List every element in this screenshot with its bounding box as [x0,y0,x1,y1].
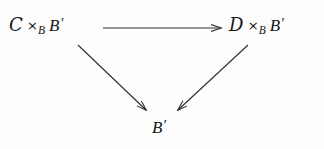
times-symbol-left: × [27,18,38,33]
node-top-left: C×BB′ [9,16,63,37]
base-B-right: B [270,16,280,35]
prime-mark-left: ′ [60,15,64,31]
prime-mark-bottom: ′ [162,117,166,133]
subscript-B-left: B [38,24,45,36]
node-bottom: B′ [152,118,166,136]
prime-mark-right: ′ [280,15,284,31]
times-symbol-right: × [248,18,259,33]
base-B-bottom: B [152,118,162,137]
base-B-left: B [49,16,59,35]
script-D-letter: D [229,14,244,35]
node-top-right: D×BB′ [229,16,284,37]
arrow-left-diagonal [78,45,146,110]
commutative-diagram-figure: C×BB′ D×BB′ B′ [0,0,324,149]
arrow-right-diagonal [178,45,248,110]
script-C-letter: C [9,14,23,35]
subscript-B-right: B [259,24,266,36]
